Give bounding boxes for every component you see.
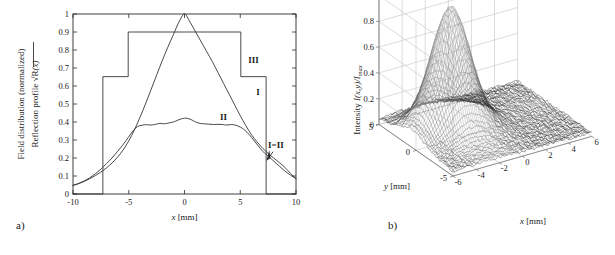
y-tick-label: 1 — [65, 9, 69, 19]
y-tickmark — [450, 176, 453, 177]
curve-III — [73, 32, 296, 194]
curve-annotation-II: II — [220, 112, 228, 122]
y-tick-label: 0.1 — [58, 171, 69, 181]
curve-annotation-I: I — [256, 87, 260, 97]
x-tick-label: 10 — [292, 197, 301, 207]
y-tick-label: 0.6 — [58, 81, 69, 91]
y-tick-label: 0.3 — [58, 135, 69, 145]
z-tick-label: 0.2 — [363, 94, 374, 104]
mesh-column — [446, 84, 520, 154]
y-tick-label: 0.2 — [58, 153, 69, 163]
x-tick-label: 0 — [182, 197, 186, 207]
y-axis-label-line1-text: Field distribution (normalized) — [16, 49, 26, 160]
z-axis-label-text: Intensity I(x,y)/Imax — [352, 65, 363, 134]
y-axis-label-line1: Field distribution (normalized) — [16, 49, 26, 160]
x-tick-label: -2 — [501, 163, 508, 173]
y-tick-label: 0.8 — [58, 45, 69, 55]
panel-a-plot-frame — [73, 14, 296, 194]
z-tick-label: 0.8 — [363, 16, 374, 26]
panel-a-line-chart: 00.10.20.30.40.50.60.70.80.91-10-50510x … — [0, 0, 308, 255]
x-tick-label: -4 — [478, 170, 486, 180]
x-tick-label: 2 — [548, 150, 552, 160]
y-axis-label-line2: Reflection profile √R(x) — [30, 61, 40, 148]
x-tick-label: -6 — [454, 177, 461, 187]
mesh-row — [409, 9, 548, 128]
x-tick-label: 0 — [525, 157, 529, 167]
x-tick-label: -10 — [67, 197, 78, 207]
mesh-row — [415, 15, 554, 132]
x-axis-label: x [mm] — [170, 212, 197, 222]
z-tick-label: 0.6 — [363, 42, 374, 52]
x-axis-line — [453, 136, 592, 176]
x-tick-label: 5 — [238, 197, 242, 207]
curve-I — [73, 14, 296, 185]
z-tick-label: 0 — [370, 120, 374, 130]
y-tick-label: 0.4 — [58, 117, 69, 127]
y-tickmark — [413, 150, 416, 151]
panel-a-label: a) — [16, 219, 25, 231]
x-tick-label: -5 — [125, 197, 132, 207]
panel-b-surface-mesh — [379, 6, 592, 172]
curve-annotation-I-II: I=II — [268, 140, 284, 150]
y-axis-label-line2-text: Reflection profile √R(x) — [30, 61, 40, 148]
z-axis-label: Intensity I(x,y)/Imax — [352, 65, 363, 134]
z-tick-label: 1 — [370, 0, 374, 1]
y-tick-label: -5 — [440, 173, 447, 183]
mesh-column — [383, 118, 457, 171]
x-tick-label: 6 — [594, 137, 598, 147]
mesh-column — [508, 83, 582, 135]
curve-II — [73, 118, 296, 185]
z-tick-label: 0.4 — [363, 68, 374, 78]
y-tick-label: 0 — [406, 147, 410, 157]
x-axis-label: x [mm] — [519, 216, 546, 226]
y-tick-label: 0.5 — [58, 99, 69, 109]
y-axis-label: y [mm] — [383, 181, 410, 191]
x-tick-label: 4 — [571, 144, 576, 154]
panel-b-label: b) — [388, 219, 397, 231]
y-tick-label: 0.7 — [58, 63, 69, 73]
panel-b-surface-chart: -6-4-20246-50500.20.40.60.81x [mm]y [mm]… — [305, 0, 615, 255]
y-tick-label: 0.9 — [58, 27, 69, 37]
panel-b-svg: -6-4-20246-50500.20.40.60.81x [mm]y [mm]… — [305, 0, 615, 255]
curve-annotation-III: III — [248, 55, 259, 65]
panel-b-grid — [379, 0, 592, 176]
figure-container: 00.10.20.30.40.50.60.70.80.91-10-50510x … — [0, 0, 615, 255]
panel-a-svg: 00.10.20.30.40.50.60.70.80.91-10-50510x … — [0, 0, 308, 255]
